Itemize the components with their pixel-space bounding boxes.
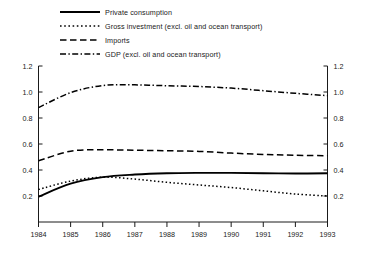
series-line — [39, 85, 328, 108]
x-tick-label: 1988 — [159, 230, 175, 239]
x-tick-label: 1991 — [255, 230, 271, 239]
y-tick-label-left: 0.4 — [23, 166, 33, 175]
x-tick-label: 1992 — [287, 230, 303, 239]
y-tick-label-right: 0.2 — [334, 192, 344, 201]
chart-container: Private consumption Gross investment (ex… — [0, 0, 373, 265]
y-tick-label-left: 0.8 — [23, 114, 33, 123]
x-tick-label: 1986 — [95, 230, 111, 239]
x-tick-label: 1989 — [191, 230, 207, 239]
series-line — [39, 150, 328, 161]
y-tick-label-right: 0.4 — [334, 166, 344, 175]
y-tick-label-left: 1.0 — [23, 88, 33, 97]
x-tick-label: 1990 — [223, 230, 239, 239]
x-tick-label: 1984 — [31, 230, 47, 239]
x-tick-label: 1985 — [63, 230, 79, 239]
y-tick-label-left: 0.6 — [23, 140, 33, 149]
x-tick-label: 1993 — [320, 230, 336, 239]
y-tick-label-right: 1.0 — [334, 88, 344, 97]
series-line — [39, 173, 328, 197]
y-tick-label-left: 0.2 — [23, 192, 33, 201]
y-tick-label-right: 1.2 — [334, 62, 344, 71]
x-tick-label: 1987 — [127, 230, 143, 239]
y-tick-label-right: 0.6 — [334, 140, 344, 149]
y-tick-label-right: 0.8 — [334, 114, 344, 123]
y-tick-label-left: 1.2 — [23, 62, 33, 71]
plot-area: 0.20.20.40.40.60.60.80.81.01.01.21.21984… — [0, 0, 373, 265]
